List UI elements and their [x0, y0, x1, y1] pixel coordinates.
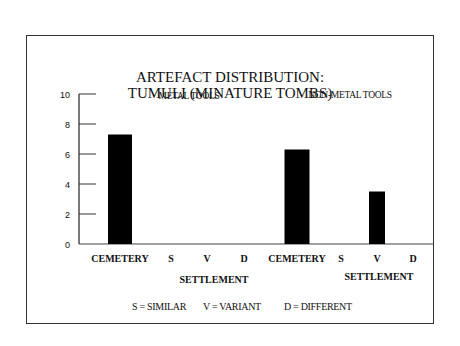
chart: ARTEFACT DISTRIBUTION: TUMULI (MINATURE … — [0, 0, 460, 346]
bar-non-metal-cemetery — [285, 150, 310, 245]
y-tick-label: 4 — [65, 180, 70, 190]
x-category-labels: CEMETERYSVDCEMETERYSVD — [91, 253, 416, 264]
bars — [108, 135, 385, 245]
x-tick-label: CEMETERY — [91, 253, 149, 264]
chart-title: ARTEFACT DISTRIBUTION: — [136, 69, 324, 85]
bar-metal-cemetery — [108, 135, 132, 245]
panel-label-non-metal-tools: NON-METAL TOOLS — [308, 90, 392, 100]
x-tick-label: V — [373, 253, 381, 264]
y-tick-label: 2 — [65, 210, 70, 220]
x-tick-label: S — [338, 253, 344, 264]
y-tick-label: 0 — [65, 240, 70, 250]
x-tick-label: CEMETERY — [268, 253, 326, 264]
bar-non-metal-v — [369, 192, 385, 245]
x-tick-label: D — [240, 253, 247, 264]
legend-item-variant: V = VARIANT — [203, 301, 261, 312]
y-tick-label: 10 — [60, 90, 70, 100]
legend-item-different: D = DIFFERENT — [284, 301, 352, 312]
x-tick-label: D — [409, 253, 416, 264]
panel-label-metal-tools: METAL TOOLS — [159, 91, 220, 101]
x-tick-label: V — [203, 253, 211, 264]
x-tick-label: S — [168, 253, 174, 264]
group-label-settlement-non-metal: SETTLEMENT — [345, 271, 414, 282]
group-label-settlement-metal: SETTLEMENT — [180, 274, 249, 285]
y-tick-label: 8 — [65, 120, 70, 130]
y-tick-label: 6 — [65, 150, 70, 160]
legend-item-similar: S = SIMILAR — [132, 301, 187, 312]
